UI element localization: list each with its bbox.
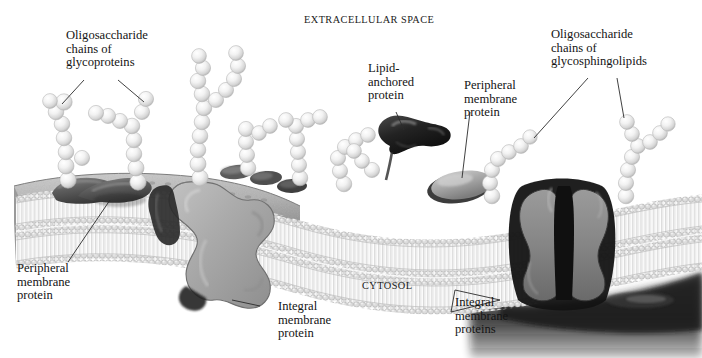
figure-canvas: EXTRACELLULAR SPACE Oligosaccharide chai… <box>0 0 702 358</box>
label-oligosaccharide-glycoproteins: Oligosaccharide chains of glycoproteins <box>66 29 148 70</box>
label-integral-membrane-protein: Integral membrane protein <box>278 300 331 341</box>
cytosol-label: CYTOSOL <box>362 280 412 291</box>
label-peripheral-membrane-protein-left: Peripheral membrane protein <box>17 262 70 303</box>
label-peripheral-membrane-protein-top: Peripheral membrane protein <box>464 79 517 120</box>
label-integral-membrane-proteins: Integral membrane proteins <box>455 296 508 337</box>
integral-membrane-proteins-channel <box>509 179 616 311</box>
label-lipid-anchored-protein: Lipid- anchored protein <box>368 62 414 103</box>
label-oligosaccharide-glycosphingolipids: Oligosaccharide chains of glycosphingoli… <box>551 28 647 69</box>
extracellular-space-label: EXTRACELLULAR SPACE <box>304 14 434 25</box>
